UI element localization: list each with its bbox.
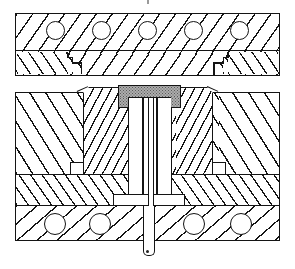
bolt-hole: [138, 21, 157, 40]
molded-part-flange-right: [171, 97, 182, 109]
step-joint-line: [213, 62, 224, 63]
scan-tick: [147, 0, 149, 4]
molded-part-flange-left: [118, 97, 129, 109]
bolt-hole: [89, 213, 111, 235]
core-pin-upper: [148, 98, 154, 206]
bolt-hole: [44, 213, 66, 235]
mold-cross-section-diagram: [0, 0, 295, 269]
insert-step-clearance-left: [70, 162, 83, 174]
ejector-pin-lower: [143, 206, 155, 256]
molded-part-top: [118, 85, 182, 97]
sleeve-inner-wall-right: [156, 98, 157, 194]
bolt-hole: [230, 213, 252, 235]
bolt-hole: [46, 21, 65, 40]
step-joint-line: [81, 62, 82, 74]
upper-plate-cap-right: [228, 52, 278, 74]
bolt-hole: [92, 21, 111, 40]
pin-tip-dot: [146, 250, 150, 254]
upper-plate-cap-left: [17, 52, 67, 74]
bolt-hole: [183, 213, 205, 235]
upper-plate-cap-left-step2: [72, 63, 81, 74]
insert-step-clearance-right: [213, 162, 226, 174]
bolt-hole: [230, 21, 249, 40]
step-joint-line: [213, 62, 214, 74]
bolt-hole: [184, 21, 203, 40]
sleeve-inner-wall-left: [142, 98, 143, 194]
upper-plate-cap-right-step2: [214, 63, 223, 74]
